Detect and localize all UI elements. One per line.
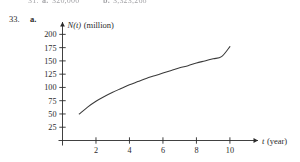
chart-plot-area: 246810255075100125150175200N(t)(million)…: [0, 0, 300, 162]
y-axis-arrow-icon: [60, 22, 65, 27]
y-tick-label: 75: [48, 97, 56, 106]
y-tick-label: 50: [48, 110, 56, 119]
x-tick-label: 2: [94, 146, 98, 155]
x-tick-label: 6: [161, 146, 165, 155]
y-tick-label: 25: [48, 123, 56, 132]
x-axis-label: t(year): [262, 136, 287, 146]
y-tick-label: 100: [44, 83, 56, 92]
x-axis-arrow-icon: [254, 138, 259, 143]
y-tick-label: 125: [44, 70, 56, 79]
data-curve: [79, 47, 230, 114]
y-tick-label: 175: [44, 44, 56, 53]
x-tick-label: 4: [127, 146, 131, 155]
graph-figure: 31. a. 320,000 b. 3,323,268 33. a. 24681…: [0, 0, 300, 162]
y-tick-label: 150: [44, 57, 56, 66]
x-tick-label: 10: [226, 146, 234, 155]
y-tick-label: 200: [44, 30, 56, 39]
y-axis-label: N(t)(million): [67, 20, 115, 30]
x-tick-label: 8: [194, 146, 198, 155]
